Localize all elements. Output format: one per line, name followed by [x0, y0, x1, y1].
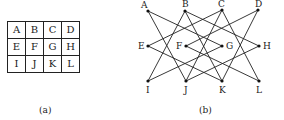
node-label-f: F — [176, 41, 182, 51]
node-label-j: J — [183, 85, 188, 95]
node-j — [184, 79, 187, 82]
node-label-i: I — [146, 85, 150, 95]
node-label-b: B — [182, 0, 189, 9]
node-label-e: E — [138, 41, 145, 51]
node-l — [257, 79, 260, 82]
node-g — [220, 44, 223, 47]
node-label-l: L — [256, 85, 262, 95]
knight-graph: ABCDEFGHIJKL — [0, 0, 284, 120]
node-label-h: H — [263, 41, 271, 51]
node-label-c: C — [218, 0, 225, 9]
node-i — [146, 79, 149, 82]
node-b — [183, 9, 186, 12]
caption-b: (b) — [199, 105, 212, 115]
node-k — [220, 79, 223, 82]
node-f — [184, 44, 187, 47]
node-label-k: K — [219, 85, 226, 95]
node-label-d: D — [255, 0, 262, 9]
node-label-g: G — [226, 41, 233, 51]
node-h — [257, 44, 260, 47]
node-label-a: A — [140, 0, 148, 10]
node-e — [146, 44, 149, 47]
